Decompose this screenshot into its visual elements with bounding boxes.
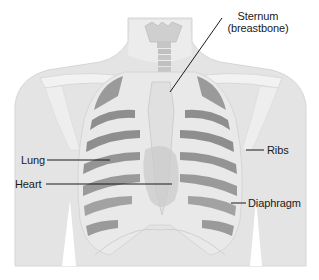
sternum-label: Sternum (breastbone) (224, 10, 292, 34)
ribs-label: Ribs (267, 144, 289, 156)
sternum-label-line1: Sternum (224, 10, 292, 22)
sternum-label-line2: (breastbone) (224, 22, 292, 34)
lung-label: Lung (21, 154, 45, 166)
anatomy-illustration (0, 0, 319, 280)
chest-anatomy-diagram: Sternum (breastbone) Lung Heart Ribs Dia… (0, 0, 319, 280)
heart-label: Heart (15, 178, 41, 190)
diaphragm-label: Diaphragm (248, 197, 301, 209)
